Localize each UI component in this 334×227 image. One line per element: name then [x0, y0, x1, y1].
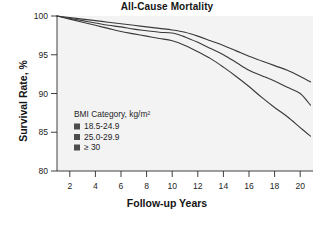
- x-tick-label: 8: [144, 181, 149, 191]
- y-tick-group: [51, 16, 57, 171]
- figure: All-Cause Mortality Survival Rate, % Fol…: [0, 0, 334, 227]
- x-tick-label: 12: [193, 181, 203, 191]
- y-tick-label-group: 10095908580: [34, 11, 49, 176]
- y-tick-label: 95: [38, 50, 48, 60]
- plot-area: 10095908580 2468101214161820 BMI Categor…: [0, 0, 334, 227]
- y-tick-label: 90: [38, 89, 48, 99]
- x-tick-label: 2: [67, 181, 72, 191]
- legend-title: BMI Category, kg/m²: [74, 109, 150, 119]
- legend-item-label: ≥ 30: [84, 142, 101, 152]
- legend-swatch: [74, 134, 80, 140]
- x-tick-group: [70, 171, 300, 177]
- legend-item-label: 18.5-24.9: [84, 121, 120, 131]
- x-tick-label-group: 2468101214161820: [67, 181, 305, 191]
- x-axis: 2468101214161820: [57, 171, 313, 191]
- x-tick-label: 20: [295, 181, 305, 191]
- legend-swatch: [74, 124, 80, 130]
- x-tick-label: 18: [270, 181, 280, 191]
- y-axis: 10095908580: [34, 11, 57, 176]
- y-tick-label: 85: [38, 127, 48, 137]
- legend-swatch: [74, 145, 80, 151]
- legend-item-label: 25.0-29.9: [84, 132, 120, 142]
- x-tick-label: 6: [119, 181, 124, 191]
- x-tick-label: 14: [219, 181, 229, 191]
- x-tick-label: 4: [93, 181, 98, 191]
- y-tick-label: 100: [34, 11, 49, 21]
- x-tick-label: 10: [167, 181, 177, 191]
- y-tick-label: 80: [38, 166, 48, 176]
- x-tick-label: 16: [244, 181, 254, 191]
